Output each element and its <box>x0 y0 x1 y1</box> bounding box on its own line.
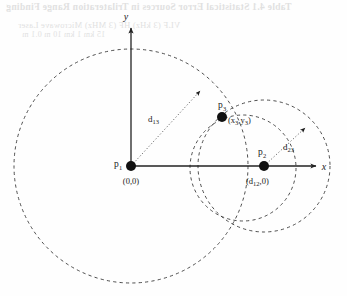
point-label-p3-subscript: 3 <box>223 105 226 112</box>
trilateration-diagram: y x p 1 (0,0) p 2 (d12,0) p 3 (x3,y3) d1… <box>0 0 347 296</box>
distance-label-d23-subscript: 23 <box>288 146 295 153</box>
y-axis-label: y <box>123 11 129 22</box>
point-coord-p3: (x3,y3) <box>228 115 251 126</box>
point-marker-p1[interactable] <box>126 161 136 171</box>
point-label-p2-subscript: 2 <box>263 152 266 159</box>
point-coord-p3-tail: ) <box>248 115 251 125</box>
distance-line-d13 <box>131 91 200 166</box>
distance-label-d13: d13 <box>148 114 159 125</box>
figure-root: Table 4.1 Statistical Error Sources in T… <box>0 0 347 296</box>
point-coord-p1: (0,0) <box>123 176 139 186</box>
point-marker-p2[interactable] <box>259 161 269 171</box>
distance-label-d13-subscript: 13 <box>153 118 160 125</box>
point-label-p1-subscript: 1 <box>119 164 122 171</box>
point-marker-p3[interactable] <box>217 112 227 122</box>
x-axis-label: x <box>321 161 327 172</box>
point-coord-p2: (d12,0) <box>246 176 269 187</box>
point-coord-p2-tail: ,0) <box>260 176 269 186</box>
